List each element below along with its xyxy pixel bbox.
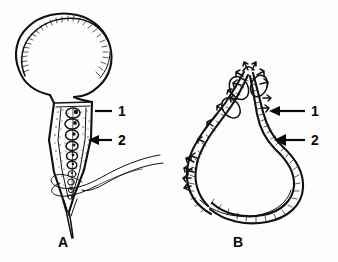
callout-b1-number: 1 — [311, 103, 319, 119]
neck-collar — [54, 102, 92, 103]
panel-label-a: A — [58, 234, 68, 250]
panel-label-b: B — [233, 234, 243, 250]
scientific-figure: 1 2 1 2 A B — [0, 0, 338, 262]
callout-a1-number: 1 — [118, 103, 126, 119]
figure-canvas: 1 2 1 2 A B — [0, 0, 338, 262]
callout-b2-number: 2 — [311, 132, 319, 148]
callout-a2-number: 2 — [118, 132, 126, 148]
